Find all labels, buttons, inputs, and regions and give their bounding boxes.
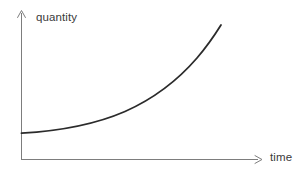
y-axis-label: quantity (36, 11, 77, 24)
data-series-line (22, 25, 222, 133)
chart-plot-area (0, 0, 306, 179)
chart-figure: quantity time (0, 0, 306, 179)
x-axis-label: time (270, 151, 292, 164)
